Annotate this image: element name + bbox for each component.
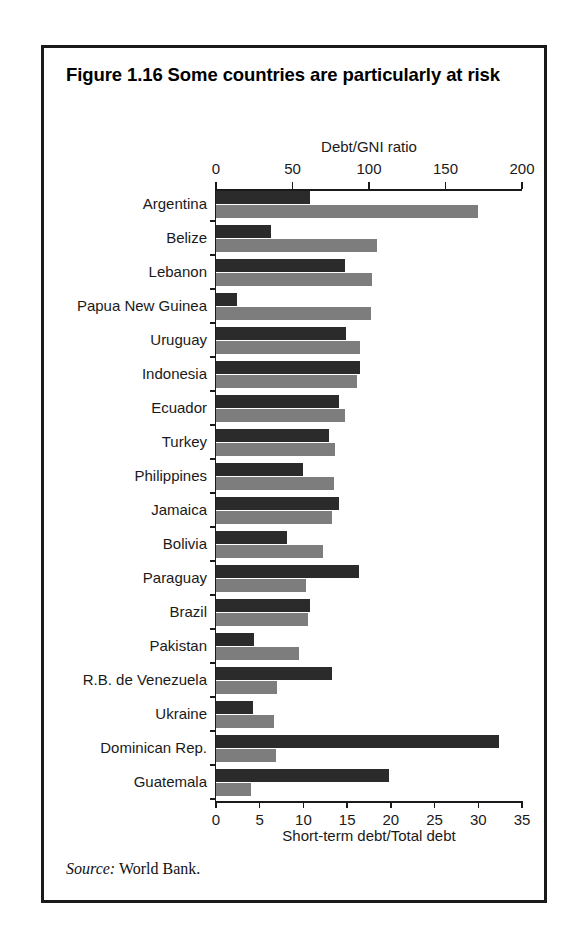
category-label: Ecuador xyxy=(151,399,207,416)
bar-debt-gni-ratio xyxy=(216,681,277,694)
bar-row: Pakistan xyxy=(216,631,522,665)
bar-debt-gni-ratio xyxy=(216,205,478,218)
axis-tick-label: 0 xyxy=(196,811,236,828)
bar-debt-gni-ratio xyxy=(216,477,334,490)
category-label: Guatemala xyxy=(134,773,207,790)
axis-tick xyxy=(215,182,217,189)
axis-tick-label: 30 xyxy=(458,811,498,828)
bar-row: Ecuador xyxy=(216,393,522,427)
bar-short-term-debt xyxy=(216,531,287,544)
category-label: R.B. de Venezuela xyxy=(83,671,207,688)
bottom-axis-label: Short-term debt/Total debt xyxy=(184,827,554,844)
axis-tick xyxy=(368,182,370,189)
bar-row: Bolivia xyxy=(216,529,522,563)
category-label: Turkey xyxy=(162,433,207,450)
bar-short-term-debt xyxy=(216,667,332,680)
bar-short-term-debt xyxy=(216,735,499,748)
category-label: Argentina xyxy=(143,195,207,212)
bar-short-term-debt xyxy=(216,361,360,374)
axis-tick-label: 100 xyxy=(349,160,389,177)
category-label: Philippines xyxy=(134,467,207,484)
axis-tick xyxy=(445,182,447,189)
axis-tick-label: 5 xyxy=(240,811,280,828)
bar-row: Turkey xyxy=(216,427,522,461)
bar-short-term-debt xyxy=(216,599,310,612)
bar-row: Papua New Guinea xyxy=(216,291,522,325)
plot-area: 050100150200 05101520253035 ArgentinaBel… xyxy=(216,189,522,849)
bar-debt-gni-ratio xyxy=(216,545,323,558)
axis-tick xyxy=(521,182,523,189)
axis-tick-label: 25 xyxy=(415,811,455,828)
bar-short-term-debt xyxy=(216,633,254,646)
axis-tick-label: 10 xyxy=(283,811,323,828)
source-label: Source: xyxy=(66,860,115,877)
bar-short-term-debt xyxy=(216,463,303,476)
bar-row: Ukraine xyxy=(216,699,522,733)
axis-tick xyxy=(478,801,480,808)
category-axis-line xyxy=(215,189,217,801)
bar-debt-gni-ratio xyxy=(216,273,372,286)
bar-rows: ArgentinaBelizeLebanonPapua New GuineaUr… xyxy=(216,189,522,801)
bar-debt-gni-ratio xyxy=(216,443,335,456)
top-axis-label: Debt/GNI ratio xyxy=(216,138,522,155)
axis-tick-label: 20 xyxy=(371,811,411,828)
bar-short-term-debt xyxy=(216,701,253,714)
bar-row: Argentina xyxy=(216,189,522,223)
bar-debt-gni-ratio xyxy=(216,613,308,626)
bar-debt-gni-ratio xyxy=(216,579,306,592)
bar-row: Guatemala xyxy=(216,767,522,801)
source-text: World Bank. xyxy=(115,860,200,877)
axis-tick-label: 15 xyxy=(327,811,367,828)
bar-debt-gni-ratio xyxy=(216,341,360,354)
bottom-axis-line xyxy=(216,801,522,803)
bar-row: Lebanon xyxy=(216,257,522,291)
category-label: Pakistan xyxy=(149,637,207,654)
axis-tick-label: 35 xyxy=(502,811,542,828)
axis-tick xyxy=(303,801,305,808)
bar-row: Belize xyxy=(216,223,522,257)
bar-short-term-debt xyxy=(216,191,310,204)
bar-short-term-debt xyxy=(216,429,329,442)
bar-row: Jamaica xyxy=(216,495,522,529)
figure-frame: Figure 1.16 Some countries are particula… xyxy=(41,45,547,903)
bar-short-term-debt xyxy=(216,769,389,782)
bar-short-term-debt xyxy=(216,565,359,578)
axis-tick-label: 200 xyxy=(502,160,542,177)
bar-debt-gni-ratio xyxy=(216,239,377,252)
bar-row: Indonesia xyxy=(216,359,522,393)
category-label: Lebanon xyxy=(149,263,207,280)
category-label: Paraguay xyxy=(143,569,207,586)
bar-debt-gni-ratio xyxy=(216,511,332,524)
bar-row: Uruguay xyxy=(216,325,522,359)
bar-debt-gni-ratio xyxy=(216,375,357,388)
category-label: Uruguay xyxy=(150,331,207,348)
category-label: Brazil xyxy=(169,603,207,620)
bar-short-term-debt xyxy=(216,395,339,408)
category-label: Indonesia xyxy=(142,365,207,382)
axis-tick xyxy=(434,801,436,808)
bar-debt-gni-ratio xyxy=(216,715,274,728)
axis-tick xyxy=(521,801,523,808)
bar-row: Philippines xyxy=(216,461,522,495)
category-label: Ukraine xyxy=(155,705,207,722)
bar-debt-gni-ratio xyxy=(216,749,276,762)
bar-row: Paraguay xyxy=(216,563,522,597)
bar-debt-gni-ratio xyxy=(216,307,371,320)
category-label: Belize xyxy=(166,229,207,246)
axis-tick-label: 50 xyxy=(273,160,313,177)
bar-short-term-debt xyxy=(216,293,237,306)
bar-debt-gni-ratio xyxy=(216,783,251,796)
axis-tick xyxy=(346,801,348,808)
bar-debt-gni-ratio xyxy=(216,647,299,660)
category-label: Bolivia xyxy=(163,535,207,552)
source-note: Source: World Bank. xyxy=(66,860,200,878)
bar-row: R.B. de Venezuela xyxy=(216,665,522,699)
bar-debt-gni-ratio xyxy=(216,409,345,422)
axis-tick-label: 150 xyxy=(426,160,466,177)
bar-row: Dominican Rep. xyxy=(216,733,522,767)
axis-tick-label: 0 xyxy=(196,160,236,177)
figure-title: Figure 1.16 Some countries are particula… xyxy=(66,62,516,88)
category-label: Dominican Rep. xyxy=(100,739,207,756)
bar-short-term-debt xyxy=(216,259,345,272)
bar-short-term-debt xyxy=(216,327,346,340)
